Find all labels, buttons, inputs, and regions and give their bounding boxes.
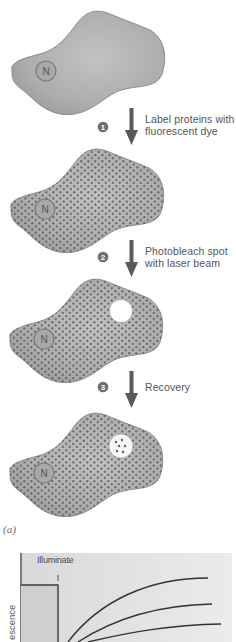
nucleus-label: N: [42, 66, 49, 77]
nucleus-label: N: [40, 468, 47, 479]
frap-diagram: N N N N: [0, 0, 236, 642]
svg-text:2: 2: [101, 253, 106, 262]
step-1-line-2: fluorescent dye: [145, 125, 234, 137]
bleach-spot: [110, 300, 133, 323]
panel-label-a: (a): [3, 523, 16, 535]
prebleach-region: [21, 585, 58, 642]
svg-text:1: 1: [101, 123, 106, 132]
step-3-text: Recovery: [145, 381, 190, 393]
step-1-arrow: 1: [98, 108, 138, 145]
recovery-spot: [109, 434, 133, 458]
y-axis-label: escence: [6, 605, 17, 640]
nucleus-label: N: [41, 204, 48, 215]
step-3-arrow: 3: [98, 371, 138, 408]
step-3-line-1: Recovery: [145, 381, 190, 393]
step-2-line-2: with laser beam: [145, 257, 228, 269]
step-1-line-1: Label proteins with: [145, 113, 234, 125]
cell-photobleached: N: [0, 268, 178, 398]
svg-text:3: 3: [101, 383, 106, 392]
cell-recovered: N: [0, 402, 178, 532]
cell-unlabeled: N: [12, 11, 165, 114]
recovery-chart: [20, 553, 232, 642]
step-2-line-1: Photobleach spot: [145, 245, 228, 257]
step-1-text: Label proteins with fluorescent dye: [145, 113, 234, 137]
nucleus-label: N: [40, 334, 47, 345]
illuminate-label: Illuminate: [37, 555, 74, 565]
step-2-text: Photobleach spot with laser beam: [145, 245, 228, 269]
step-2-arrow: 2: [98, 240, 138, 277]
